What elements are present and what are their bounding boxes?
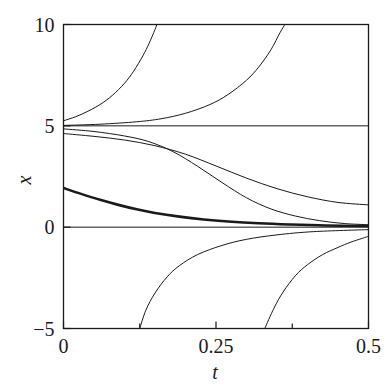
y-tick-label-0: 0 bbox=[45, 216, 55, 238]
y-tick-label-5: 5 bbox=[45, 115, 55, 137]
chart-figure: 00.250.5 −50510 t x bbox=[0, 0, 391, 385]
x-tick-label-0.5: 0.5 bbox=[356, 335, 381, 357]
y-tick-label--5: −5 bbox=[33, 318, 54, 340]
figure-background bbox=[0, 0, 391, 385]
y-tick-label-10: 10 bbox=[35, 14, 55, 36]
ode-solution-curves-plot: 00.250.5 −50510 t x bbox=[0, 0, 391, 385]
x-tick-label-0: 0 bbox=[59, 335, 69, 357]
x-tick-label-0.25: 0.25 bbox=[199, 335, 234, 357]
x-axis-title: t bbox=[212, 361, 218, 383]
y-axis-title: x bbox=[13, 175, 35, 185]
